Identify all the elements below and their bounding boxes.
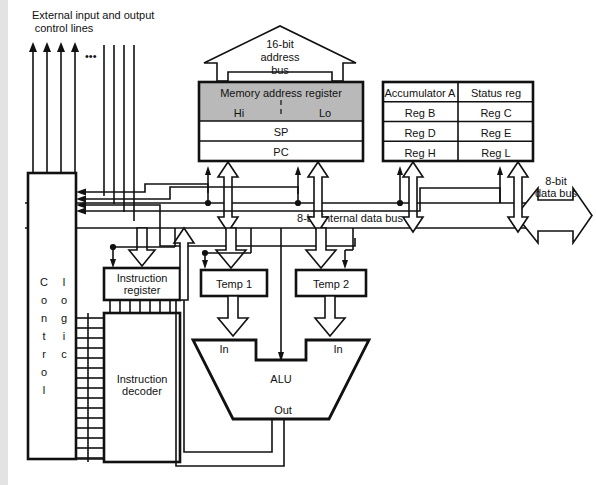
alu-label: ALU xyxy=(270,373,291,385)
control-logic-feedback-arrowheads xyxy=(76,189,86,215)
logic-letter-3: i xyxy=(63,330,65,342)
logic-letter-4: c xyxy=(61,348,67,360)
control-letter-2: n xyxy=(41,312,47,324)
logic-letter-1: o xyxy=(61,294,67,306)
regfile-cell-reg-e: Reg E xyxy=(481,127,512,139)
regfile-cell-accumulator-a: Accumulator A xyxy=(385,87,457,99)
control-letter-0: C xyxy=(40,276,48,288)
regfile-cell-reg-h: Reg H xyxy=(404,147,435,159)
mar-hi-label: Hi xyxy=(234,107,244,119)
control-lines-ellipsis: ••• xyxy=(85,50,97,62)
temp2-label: Temp 2 xyxy=(313,278,349,290)
temp-control-taps xyxy=(202,228,353,269)
cpu-block-diagram: External input and output control lines … xyxy=(0,0,596,485)
decoder-to-control-ladder xyxy=(76,313,104,462)
external-lines-label-line1: External input and output xyxy=(32,9,154,21)
mar-row-pc: PC xyxy=(273,146,288,158)
control-logic-box xyxy=(28,173,76,459)
control-letter-3: t xyxy=(42,330,45,342)
control-letter-1: o xyxy=(41,294,47,306)
ir-to-decoder-bitlines xyxy=(110,300,170,313)
instruction-decoder-label-line2: decoder xyxy=(122,385,162,397)
address-bus-label-line1: 16-bit xyxy=(266,38,294,50)
ir-input-connectors xyxy=(110,228,175,268)
control-line-arrows xyxy=(33,48,75,175)
mar-title: Memory address register xyxy=(220,87,342,99)
control-line-arrowheads xyxy=(29,42,79,52)
regfile-cell-reg-l: Reg L xyxy=(481,147,510,159)
mar-lo-label: Lo xyxy=(319,107,331,119)
data-bus-label-line1: 8-bit xyxy=(545,175,566,187)
alu-output-label: Out xyxy=(274,404,292,416)
instruction-register-label-line1: Instruction xyxy=(117,272,168,284)
internal-data-bus xyxy=(25,203,545,228)
control-letter-5: o xyxy=(41,366,47,378)
instruction-register-label-line2: register xyxy=(124,284,161,296)
address-bus-label-line3: bus xyxy=(271,64,289,76)
regfile-cell-reg-b: Reg B xyxy=(405,107,436,119)
control-signal-taps xyxy=(205,166,503,206)
alu-input-right-label: In xyxy=(333,343,342,355)
external-lines-label-line2: control lines xyxy=(35,22,94,34)
logic-letter-2: g xyxy=(61,312,67,324)
diagram-canvas: External input and output control lines … xyxy=(0,0,596,485)
regfile-cell-status-reg: Status reg xyxy=(471,87,521,99)
address-bus-label-line2: address xyxy=(260,51,300,63)
control-line-plain xyxy=(104,45,134,221)
logic-letter-0: l xyxy=(63,276,65,288)
instruction-decoder-label-line1: Instruction xyxy=(117,373,168,385)
alu-input-left-label: In xyxy=(219,343,228,355)
control-letter-6: l xyxy=(43,384,45,396)
mar-row-sp: SP xyxy=(274,126,289,138)
data-bus-label-line2: data bus xyxy=(535,187,578,199)
control-letter-4: r xyxy=(42,348,46,360)
temp1-label: Temp 1 xyxy=(216,278,252,290)
regfile-cell-reg-c: Reg C xyxy=(480,107,511,119)
regfile-cell-reg-d: Reg D xyxy=(404,127,435,139)
temp-input-arrows xyxy=(216,228,336,268)
alu-center-control-line xyxy=(278,228,284,362)
